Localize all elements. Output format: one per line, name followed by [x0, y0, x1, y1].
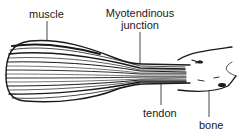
bone-end	[178, 47, 236, 91]
muscle-tendon-diagram: muscle Myotendinous junction tendon bone	[0, 0, 246, 140]
muscle-label: muscle	[29, 8, 64, 20]
myotendinous-label-line1: Myotendinous	[104, 7, 176, 19]
muscle-body	[6, 40, 190, 101]
myotendinous-junction-label: Myotendinous junction	[104, 7, 176, 31]
tendon-label: tendon	[143, 107, 177, 119]
myotendinous-label-line2: junction	[104, 19, 176, 31]
bone-label: bone	[199, 119, 223, 131]
